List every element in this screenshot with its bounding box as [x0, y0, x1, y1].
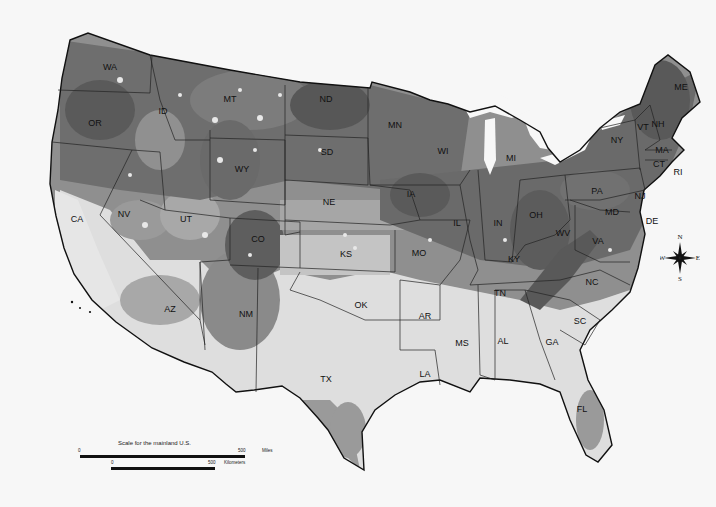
state-label-ne: NE: [323, 197, 336, 207]
state-label-pa: PA: [591, 186, 602, 196]
km-end: 500: [208, 460, 216, 465]
state-label-ga: GA: [545, 337, 558, 347]
scale-bar: Scale for the mainland U.S. 0 500 Miles …: [78, 440, 308, 480]
state-label-me: ME: [674, 82, 688, 92]
state-label-ky: KY: [508, 254, 520, 264]
compass-n: N: [677, 233, 682, 241]
state-label-nj: NJ: [635, 191, 646, 201]
state-label-mt: MT: [224, 94, 237, 104]
state-label-mn: MN: [388, 120, 402, 130]
state-label-la: LA: [419, 369, 430, 379]
state-label-tx: TX: [320, 374, 332, 384]
state-label-in: IN: [494, 218, 503, 228]
km-unit: Kilometers: [224, 460, 245, 465]
compass-rose-icon: N S E W: [660, 232, 700, 282]
state-label-ar: AR: [419, 311, 432, 321]
state-label-al: AL: [497, 336, 508, 346]
state-label-il: IL: [453, 218, 461, 228]
state-label-fl: FL: [577, 404, 588, 414]
state-label-sc: SC: [574, 316, 587, 326]
state-label-az: AZ: [164, 304, 176, 314]
state-label-vt: VT: [637, 122, 649, 132]
state-label-tn: TN: [494, 288, 506, 298]
state-label-nv: NV: [118, 209, 131, 219]
compass-e: E: [696, 254, 700, 262]
state-label-ok: OK: [354, 300, 367, 310]
state-label-de: DE: [646, 216, 659, 226]
state-label-nd: ND: [320, 94, 333, 104]
miles-bar: [80, 455, 245, 458]
miles-unit: Miles: [262, 448, 273, 453]
state-label-nh: NH: [652, 119, 665, 129]
us-map: WAORCANVIDMTWYUTCOAZNMNDSDNEKSOKTXMNIAMO…: [0, 0, 716, 507]
state-label-ia: IA: [407, 189, 416, 199]
miles-end: 500: [238, 448, 246, 453]
state-label-ms: MS: [455, 338, 469, 348]
state-label-ca: CA: [71, 214, 84, 224]
state-label-ks: KS: [340, 249, 352, 259]
state-label-nm: NM: [239, 309, 253, 319]
state-label-ri: RI: [674, 167, 683, 177]
state-label-wa: WA: [103, 62, 117, 72]
state-label-co: CO: [251, 234, 265, 244]
state-label-ny: NY: [611, 135, 624, 145]
state-label-sd: SD: [321, 147, 334, 157]
state-label-wv: WV: [556, 228, 571, 238]
state-label-wi: WI: [438, 146, 449, 156]
compass-s: S: [678, 275, 682, 282]
km-start: 0: [111, 460, 114, 465]
state-label-ma: MA: [655, 145, 669, 155]
miles-start: 0: [78, 448, 81, 453]
state-label-ct: CT: [653, 159, 665, 169]
km-bar: [111, 467, 215, 470]
state-label-va: VA: [592, 236, 603, 246]
state-label-nc: NC: [586, 277, 599, 287]
compass-w: W: [660, 254, 666, 262]
state-label-oh: OH: [529, 210, 543, 220]
state-label-mo: MO: [412, 248, 427, 258]
state-label-id: ID: [159, 106, 169, 116]
state-label-or: OR: [88, 118, 102, 128]
state-label-mi: MI: [506, 153, 516, 163]
state-label-wy: WY: [235, 164, 250, 174]
state-label-ut: UT: [180, 214, 192, 224]
scale-title: Scale for the mainland U.S.: [118, 440, 191, 446]
state-label-md: MD: [605, 207, 619, 217]
